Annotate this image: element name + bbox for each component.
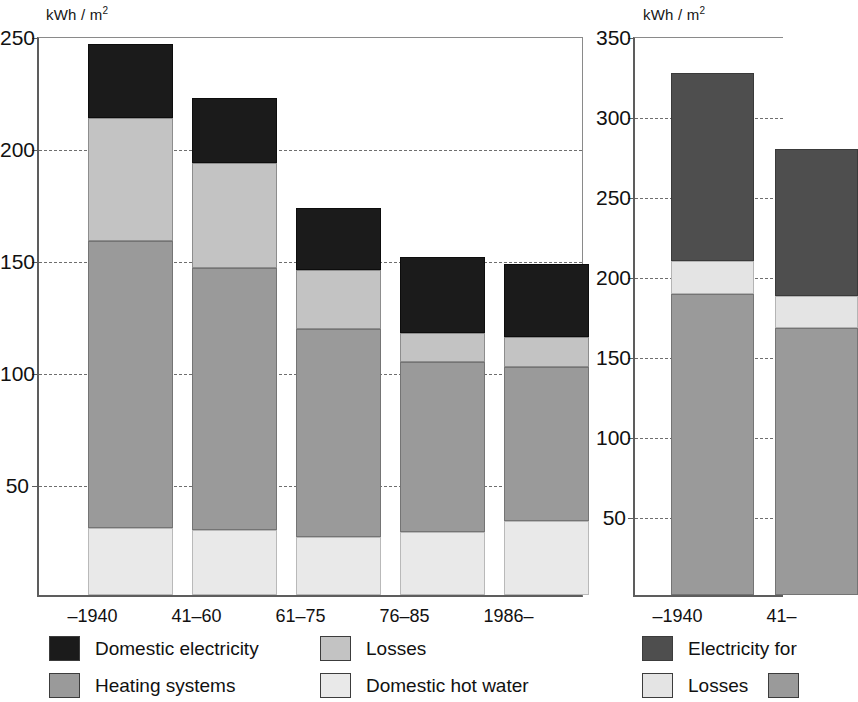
right-bar-41--segment-electricity-for	[775, 149, 858, 296]
left-chart-panel: kWh / m2	[0, 0, 600, 702]
legend-item-electricity-for[interactable]: Electricity for	[642, 636, 797, 661]
legend-swatch-heating-systems-icon	[49, 673, 80, 698]
right-bar-41--segment-heating-systems	[775, 328, 858, 595]
legend-swatch-losses-right-icon	[642, 673, 673, 698]
right-chart-legend: Electricity for Losses	[600, 0, 783, 702]
legend-label-losses-right: Losses	[688, 676, 748, 695]
legend-label-domestic-electricity: Domestic electricity	[95, 639, 259, 658]
legend-item-domestic-hot-water[interactable]: Domestic hot water	[320, 673, 529, 698]
legend-item-losses-right[interactable]: Losses	[642, 673, 748, 698]
legend-swatch-domestic-hot-water-icon	[320, 673, 351, 698]
legend-swatch-domestic-electricity-icon	[49, 636, 80, 661]
legend-label-domestic-hot-water: Domestic hot water	[366, 676, 529, 695]
right-chart-panel: kWh / m2	[600, 0, 783, 702]
right-bar-41-	[775, 149, 858, 595]
legend-label-losses: Losses	[366, 639, 426, 658]
legend-label-electricity-for: Electricity for	[688, 639, 797, 658]
legend-item-heating-systems[interactable]: Heating systems	[49, 673, 235, 698]
legend-item-cropped-right-column[interactable]	[768, 673, 799, 698]
legend-item-losses[interactable]: Losses	[320, 636, 426, 661]
right-bar-41--segment-losses	[775, 296, 858, 328]
legend-label-heating-systems: Heating systems	[95, 676, 235, 695]
legend-swatch-electricity-for-icon	[642, 636, 673, 661]
legend-swatch-losses-icon	[320, 636, 351, 661]
legend-item-domestic-electricity[interactable]: Domestic electricity	[49, 636, 259, 661]
legend-swatch-cropped-icon	[768, 673, 799, 698]
left-chart-legend: Domestic electricity Losses Heating syst…	[0, 0, 600, 702]
